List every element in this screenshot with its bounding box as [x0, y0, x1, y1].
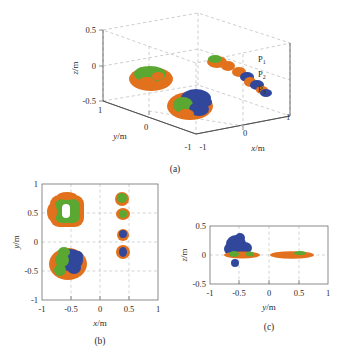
panel-c-caption: (c): [264, 322, 275, 333]
x-axis-ticks: -1 0 1 x/m: [199, 112, 290, 153]
legend-item-p3: P3: [258, 84, 266, 95]
cluster-centre-front: [167, 89, 213, 120]
cluster-b-right-4: [116, 245, 130, 259]
panel-b-y-axis-label: y/m: [11, 235, 21, 250]
x-tick-2: 1: [286, 112, 290, 122]
panel-b-svg: 1 0.5 0 -0.5 -1 y/m -1 -0.5 0 0.5 1 x/m …: [0, 176, 180, 354]
panel-b-xtick-2: 0: [98, 304, 102, 314]
panel-b-caption: (b): [94, 336, 105, 347]
y-tick-0: 1: [98, 105, 102, 115]
panel-b-data: [47, 192, 130, 280]
panel-b-ytick-3: 0.5: [27, 208, 38, 218]
panel-c-yz-scatter: 0.5 0 -0.5 z/m -1 -0.5 0 0.5 1 y/m (c): [172, 218, 351, 354]
cluster-c-orange-right: [270, 251, 314, 259]
legend-sub-p1: 1: [263, 59, 266, 65]
legend-sub-p2: 2: [263, 74, 266, 80]
z-axis-ticks: 0.5 0 -0.5 z/m: [70, 25, 103, 106]
cluster-b-upper-left: [47, 192, 84, 227]
panel-c-xtick-4: 1: [326, 288, 330, 298]
cluster-b-lower-left: [49, 247, 87, 280]
cluster-left-upper: [129, 66, 173, 91]
z-tick-0: 0.5: [85, 25, 96, 35]
legend-item-p1: P1: [258, 54, 266, 65]
cluster-upper-right: [207, 55, 235, 71]
panel-b-xtick-1: -0.5: [64, 304, 77, 314]
legend-3d: P1 P2 P3: [258, 54, 266, 95]
z-tick-1: 0: [92, 61, 96, 71]
panel-b-ytick-1: -0.5: [25, 266, 38, 276]
panel-c-xtick-3: 0.5: [294, 288, 305, 298]
cluster-diagonal-chain: [232, 67, 272, 97]
panel-c-x-ticks: -1 -0.5 0 0.5 1 y/m: [206, 280, 330, 312]
cluster-c-blue-left: [224, 233, 252, 267]
x-tick-1: 0: [243, 128, 247, 138]
panel-c-y-axis-label: z/m: [179, 248, 189, 262]
panel-c-y-ticks: 0.5 0 -0.5 z/m: [179, 221, 206, 289]
z-tick-2: -0.5: [83, 96, 96, 106]
panel-b-xtick-3: 0.5: [124, 304, 135, 314]
y-tick-1: 0: [144, 122, 148, 132]
panel-b-xtick-0: -1: [38, 304, 45, 314]
panel-c-ytick-0: -0.5: [193, 279, 206, 289]
legend-sub-p3: 3: [263, 89, 266, 95]
panel-a-caption: (a): [170, 164, 181, 175]
panel-a-3d-scatter: 0.5 0 -0.5 z/m 1 0 -1 y/m -1 0 1 x/m: [0, 0, 351, 178]
cluster-b-right-2: [116, 208, 130, 220]
panel-c-xtick-2: 0: [267, 288, 271, 298]
y-tick-2: -1: [184, 142, 191, 152]
x-axis-label: x/m: [250, 143, 265, 153]
panel-c-ytick-1: 0: [202, 250, 206, 260]
data-cluster-group-3d: [129, 55, 272, 120]
panel-a-svg: 0.5 0 -0.5 z/m 1 0 -1 y/m -1 0 1 x/m: [0, 0, 351, 178]
panel-b-xy-scatter: 1 0.5 0 -0.5 -1 y/m -1 -0.5 0 0.5 1 x/m …: [0, 176, 180, 354]
cluster-b-right-1: [115, 192, 129, 206]
panel-b-x-axis-label: x/m: [92, 318, 107, 328]
panel-c-ytick-2: 0.5: [195, 221, 206, 231]
x-tick-0: -1: [199, 142, 206, 152]
panel-c-xtick-1: -0.5: [232, 288, 245, 298]
panel-c-x-axis-label: y/m: [261, 302, 276, 312]
panel-c-svg: 0.5 0 -0.5 z/m -1 -0.5 0 0.5 1 y/m (c): [172, 218, 351, 354]
panel-c-xtick-0: -1: [206, 288, 213, 298]
z-axis-label: z/m: [70, 61, 80, 75]
panel-b-xtick-4: 1: [156, 304, 160, 314]
y-axis-label: y/m: [112, 131, 127, 141]
panel-b-ytick-2: 0: [34, 237, 38, 247]
panel-b-ytick-4: 1: [34, 179, 38, 189]
panel-b-ytick-0: -1: [31, 295, 38, 305]
legend-item-p2: P2: [258, 69, 266, 80]
cluster-b-right-3: [117, 229, 129, 241]
panel-b-x-ticks: -1 -0.5 0 0.5 1 x/m: [38, 296, 160, 328]
panel-b-y-ticks: 1 0.5 0 -0.5 -1 y/m: [11, 179, 38, 305]
